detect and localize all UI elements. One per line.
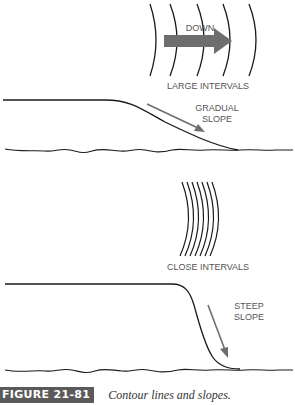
figure-caption: FIGURE 21-81 Contour lines and slopes. — [0, 385, 295, 405]
steep-slope-arrow-icon — [208, 305, 228, 358]
large-intervals-label: LARGE INTERVALS — [167, 81, 249, 91]
down-label: DOWN — [186, 23, 215, 33]
ground-line-top — [5, 149, 293, 153]
steep-label-line1: STEEP — [234, 301, 264, 311]
gradual-label-line1: GRADUAL — [195, 103, 239, 113]
ground-line-bottom — [5, 369, 293, 372]
steep-slope-profile — [5, 284, 240, 369]
steep-label-line2: SLOPE — [234, 312, 264, 322]
figure-number-badge: FIGURE 21-81 — [0, 387, 94, 403]
gradual-label-line2: SLOPE — [202, 114, 232, 124]
caption-text: Contour lines and slopes. — [108, 388, 231, 403]
contour-slope-diagram: DOWN LARGE INTERVALS GRADUAL SLOPE CLOSE… — [0, 0, 295, 405]
close-intervals-label: CLOSE INTERVALS — [167, 262, 249, 272]
close-interval-contours — [180, 182, 219, 256]
